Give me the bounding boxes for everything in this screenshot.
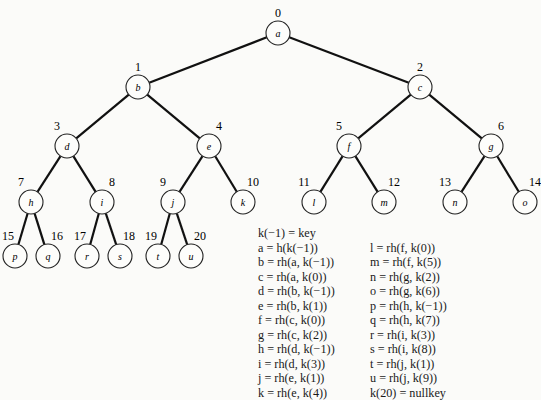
tree-node-h: h7 [18, 175, 43, 214]
tree-edge-i-r [90, 214, 99, 245]
node-label: e [207, 141, 212, 152]
legend-entry: a = h(k(−1)) [258, 241, 335, 256]
node-label: g [489, 141, 494, 152]
node-index-label: 16 [51, 229, 63, 243]
node-index-label: 9 [160, 175, 166, 189]
node-index-label: 7 [18, 175, 24, 189]
node-label: i [101, 197, 104, 208]
tree-node-k: k10 [231, 175, 259, 214]
legend-entry: o = rh(g, k(6)) [370, 284, 447, 299]
legend-entry: p = rh(h, k(−1)) [370, 299, 447, 314]
node-label: n [453, 197, 458, 208]
legend-entry: g = rh(c, k(2)) [258, 328, 335, 343]
legend-entry: f = rh(c, k(0)) [258, 313, 335, 328]
node-label: k [241, 197, 246, 208]
legend-entry: s = rh(i, k(8)) [370, 342, 447, 357]
node-label: u [189, 251, 194, 262]
tree-node-c: c2 [408, 60, 432, 99]
tree-edge-c-g [429, 95, 482, 139]
node-label: o [523, 197, 528, 208]
legend-entry: e = rh(b, k(1)) [258, 299, 335, 314]
tree-edge-f-m [355, 156, 377, 192]
tree-node-l: l11 [298, 175, 326, 214]
legend-left-column: a = h(k(−1)) b = rh(a, k(−1)) c = rh(a, … [258, 241, 335, 400]
tree-node-f: f5 [336, 119, 361, 158]
tree-edge-g-n [461, 156, 484, 192]
node-index-label: 8 [109, 175, 115, 189]
node-index-label: 12 [388, 175, 400, 189]
legend-entry: i = rh(d, k(3)) [258, 357, 335, 372]
tree-edge-c-f [358, 95, 411, 139]
legend-entry: m = rh(f, k(5)) [370, 255, 447, 270]
node-index-label: 13 [439, 175, 451, 189]
node-label: r [85, 251, 89, 262]
node-index-label: 11 [298, 175, 310, 189]
node-index-label: 14 [529, 175, 541, 189]
tree-node-a: a0 [266, 6, 290, 45]
tree-node-q: q16 [36, 229, 63, 268]
tree-edge-i-s [106, 213, 116, 244]
node-label: t [157, 251, 160, 262]
node-label: h [29, 197, 34, 208]
tree-node-b: b1 [126, 60, 150, 99]
node-label: l [313, 197, 316, 208]
node-index-label: 18 [123, 229, 135, 243]
tree-edge-d-i [73, 156, 95, 192]
tree-node-n: n13 [439, 175, 467, 214]
tree-edge-e-j [179, 156, 202, 192]
legend-entry: u = rh(j, k(9)) [370, 371, 447, 386]
legend-right-column: l = rh(f, k(0)) m = rh(f, k(5)) n = rh(g… [370, 241, 447, 400]
tree-edge-h-p [18, 214, 27, 245]
node-label: s [118, 251, 122, 262]
node-index-label: 17 [74, 229, 86, 243]
node-index-label: 20 [194, 229, 206, 243]
tree-node-d: d3 [54, 119, 79, 158]
tree-edge-e-k [215, 156, 237, 191]
legend-entry: l = rh(f, k(0)) [370, 241, 447, 256]
node-label: m [380, 197, 387, 208]
tree-node-e: e4 [197, 119, 222, 158]
tree-edges [18, 37, 518, 244]
legend-entry: r = rh(i, k(3)) [370, 328, 447, 343]
legend-header: k(−1) = key [258, 226, 316, 241]
node-index-label: 3 [54, 119, 60, 133]
legend-entry: t = rh(j, k(1)) [370, 357, 447, 372]
node-index-label: 10 [247, 175, 259, 189]
tree-node-m: m12 [372, 175, 400, 214]
legend-entry: h = rh(d, k(−1)) [258, 342, 335, 357]
legend-entry: n = rh(g, k(2)) [370, 270, 447, 285]
legend-entry: q = rh(h, k(7)) [370, 313, 447, 328]
node-index-label: 5 [336, 119, 342, 133]
tree-edge-g-o [497, 156, 519, 191]
tree-node-o: o14 [513, 175, 541, 214]
node-index-label: 15 [2, 229, 14, 243]
tree-node-i: i8 [90, 175, 115, 214]
node-label: q [46, 251, 51, 262]
legend-entry: k(20) = nullkey [370, 386, 447, 400]
node-index-label: 4 [216, 119, 222, 133]
legend-entry: b = rh(a, k(−1)) [258, 255, 335, 270]
tree-edge-a-c [289, 37, 409, 82]
tree-node-j: j9 [160, 175, 185, 214]
tree-edge-j-u [177, 213, 187, 244]
node-index-label: 1 [135, 60, 141, 74]
tree-edge-a-b [149, 37, 267, 82]
node-index-label: 2 [417, 60, 423, 74]
node-index-label: 0 [275, 6, 281, 20]
tree-edge-d-h [37, 156, 60, 192]
node-index-label: 6 [498, 119, 504, 133]
node-label: a [276, 28, 281, 39]
tree-edge-f-l [320, 156, 342, 192]
legend-entry: c = rh(a, k(0)) [258, 270, 335, 285]
tree-edge-b-e [147, 95, 200, 139]
tree-node-p: p15 [2, 229, 27, 268]
legend-entry: d = rh(b, k(−1)) [258, 284, 335, 299]
legend-entry: k = rh(e, k(4)) [258, 386, 335, 400]
node-label: p [12, 251, 18, 262]
node-index-label: 19 [145, 229, 157, 243]
node-label: b [136, 82, 141, 93]
tree-edge-b-d [76, 95, 129, 139]
tree-node-g: g6 [479, 119, 504, 158]
tree-edge-h-q [35, 213, 45, 244]
tree-node-t: t19 [145, 229, 170, 268]
